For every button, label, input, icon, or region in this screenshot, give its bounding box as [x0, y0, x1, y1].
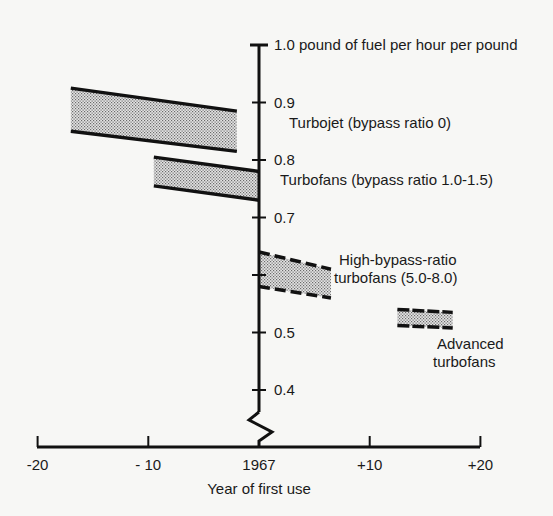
x-tick-label: +10 — [357, 456, 382, 473]
axis-break-icon — [249, 412, 272, 447]
series-label-line: turbofans — [433, 353, 496, 370]
series-band — [259, 252, 331, 298]
series-label-line: turbofans (5.0-8.0) — [334, 269, 457, 286]
y-tick-label: 0.5 — [274, 324, 295, 341]
y-axis: 1.0 pound of fuel per hour per pound0.90… — [249, 36, 518, 447]
series-label-line: Turbofans (bypass ratio 1.0-1.5) — [280, 171, 493, 188]
y-tick-label: 0.4 — [274, 381, 295, 398]
x-axis-title: Year of first use — [207, 480, 311, 497]
series-labels: Turbojet (bypass ratio 0)Turbofans (bypa… — [280, 114, 504, 370]
series-label: Advancedturbofans — [433, 335, 504, 370]
y-tick-label: 0.8 — [274, 151, 295, 168]
series-band — [154, 157, 259, 200]
x-tick-label: - 10 — [135, 456, 161, 473]
series-band — [397, 310, 452, 328]
y-tick-label: 1.0 pound of fuel per hour per pound — [274, 36, 518, 53]
series-label: Turbofans (bypass ratio 1.0-1.5) — [280, 171, 493, 188]
y-tick-label: 0.7 — [274, 209, 295, 226]
series-label-line: Advanced — [437, 335, 504, 352]
y-tick-label: 0.9 — [274, 94, 295, 111]
series-label-line: Turbojet (bypass ratio 0) — [289, 114, 451, 131]
series-label-line: High-bypass-ratio — [339, 251, 457, 268]
x-tick-label: +20 — [468, 456, 493, 473]
series-band — [71, 88, 237, 151]
x-tick-label: 1967 — [242, 456, 275, 473]
x-tick-label: -20 — [27, 456, 49, 473]
series-label: Turbojet (bypass ratio 0) — [289, 114, 451, 131]
series-label: High-bypass-ratioturbofans (5.0-8.0) — [334, 251, 457, 286]
fuel-consumption-chart: 1.0 pound of fuel per hour per pound0.90… — [0, 0, 553, 516]
